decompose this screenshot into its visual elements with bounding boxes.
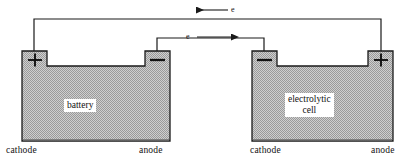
middle-wire [157, 38, 264, 51]
cell-cathode-caption: cathode [250, 146, 281, 156]
battery-vessel [22, 51, 170, 141]
electrolytic-cell-label-line2: cell [288, 105, 331, 116]
battery-label: battery [64, 99, 96, 112]
top-wire [34, 19, 381, 51]
middle-electron-label: e [186, 33, 190, 41]
electrolytic-cell-label: electrolytic cell [285, 93, 334, 117]
electrochemistry-diagram: battery electrolytic cell cathode anode … [0, 0, 415, 166]
battery-body-outline [22, 51, 170, 141]
top-electron-label: e [231, 6, 235, 14]
electrolytic-cell-label-line1: electrolytic [288, 94, 331, 105]
battery-anode-caption: anode [139, 146, 163, 156]
cell-anode-caption: anode [371, 146, 395, 156]
battery-cathode-caption: cathode [6, 146, 37, 156]
diagram-canvas [0, 0, 415, 166]
